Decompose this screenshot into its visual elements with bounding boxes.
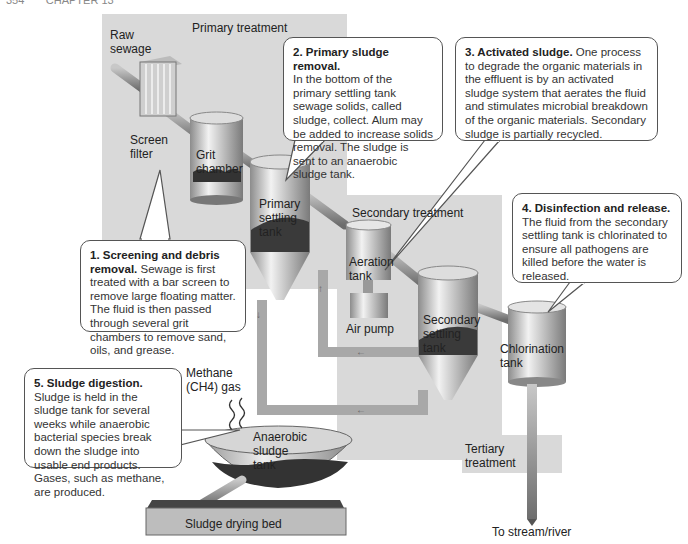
label-methane-gas: Methane (CH4) gas: [186, 366, 241, 394]
callout-body: Sewage is first treated with a bar scree…: [90, 263, 236, 357]
callout-title: 3. Activated sludge.: [465, 46, 573, 58]
callout-body: The fluid from the secondary settling ta…: [522, 216, 668, 282]
label-grit-chamber: Grit chamber: [196, 148, 241, 176]
screen-filter: [140, 56, 182, 116]
region-label-tertiary: Tertiary treatment: [465, 442, 535, 470]
callout-body: One process to degrade the organic mater…: [465, 46, 648, 140]
air-pump: [350, 293, 388, 318]
callout-title: 5. Sludge digestion.: [34, 377, 143, 389]
callout-step-4: 4. Disinfection and release. The fluid f…: [512, 193, 682, 283]
label-anaerobic-sludge-tank: Anaerobic sludge tank: [253, 430, 313, 472]
callout-body: Sludge is held in the sludge tank for se…: [34, 391, 164, 498]
label-secondary-settling-tank: Secondary settling tank: [423, 313, 483, 355]
label-raw-sewage: Raw sewage: [110, 28, 155, 56]
svg-text:↓: ↓: [256, 309, 261, 320]
label-chlorination-tank: Chlorination tank: [500, 342, 565, 370]
callout-step-5: 5. Sludge digestion. Sludge is held in t…: [24, 368, 182, 468]
svg-text:↑: ↑: [318, 283, 323, 294]
label-sludge-drying-bed: Sludge drying bed: [185, 517, 282, 531]
region-label-secondary: Secondary treatment: [352, 206, 463, 220]
methane-gas-icon: [230, 398, 245, 430]
label-primary-settling-tank: Primary settling tank: [259, 197, 304, 239]
callout-step-3: 3. Activated sludge. One process to degr…: [455, 37, 658, 141]
callout-step-2: 2. Primary sludge removal. In the bottom…: [283, 37, 443, 141]
callout-step-1: 1. Screening and debris removal. Sewage …: [80, 240, 246, 332]
svg-text:←: ←: [356, 404, 366, 415]
label-air-pump: Air pump: [346, 322, 394, 336]
label-outflow: To stream/river: [492, 525, 571, 539]
label-screen-filter: Screen filter: [130, 133, 175, 161]
callout-title: 2. Primary sludge removal.: [293, 46, 389, 72]
callout-title: 4. Disinfection and release.: [522, 202, 670, 214]
svg-text:←: ←: [356, 346, 366, 357]
label-aeration-tank: Aeration tank: [349, 255, 391, 283]
region-label-primary: Primary treatment: [192, 21, 287, 35]
